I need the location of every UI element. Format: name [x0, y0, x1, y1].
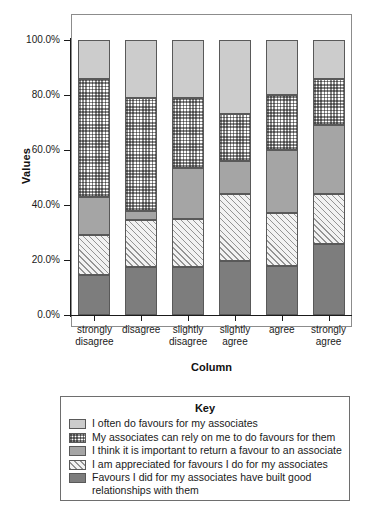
bar-segment	[266, 266, 298, 316]
stacked-bar	[172, 40, 204, 315]
y-axis-tick-label: 80.0%	[32, 90, 60, 100]
bar-segment	[125, 267, 157, 315]
legend-swatch	[69, 419, 86, 429]
bar-segment	[313, 79, 345, 126]
legend-item: I often do favours for my associates	[61, 417, 349, 430]
y-axis-tick-label: 60.0%	[32, 145, 60, 155]
bar-segment	[125, 211, 157, 221]
x-axis-category-label: slightlyagree	[210, 324, 261, 348]
x-axis-tick	[329, 316, 330, 321]
bar-segment	[78, 79, 110, 197]
legend-item-label: I am appreciated for favours I do for my…	[92, 458, 328, 471]
bar-segment	[219, 194, 251, 261]
bar-segment	[172, 40, 204, 98]
x-axis-category-label: stronglydisagree	[69, 324, 120, 348]
y-axis-tick	[64, 260, 70, 261]
bar-segment	[219, 40, 251, 114]
legend-item-label: I think it is important to return a favo…	[92, 444, 342, 457]
bar-segment	[78, 235, 110, 275]
bar-segment	[172, 168, 204, 219]
legend-items: I often do favours for my associatesMy a…	[61, 417, 349, 496]
x-axis-category-label: stronglyagree	[303, 324, 354, 348]
y-axis-tick-label: 100.0%	[26, 35, 60, 45]
legend-item: My associates can rely on me to do favou…	[61, 431, 349, 444]
bar-segment	[125, 98, 157, 211]
x-axis-category-label: agree	[256, 324, 307, 336]
legend-title: Key	[61, 402, 349, 414]
bar-segment	[266, 40, 298, 95]
legend-swatch	[69, 460, 86, 470]
legend-swatch	[69, 446, 86, 456]
x-axis-tick	[235, 316, 236, 321]
bar-segment	[125, 40, 157, 98]
stacked-bar	[219, 40, 251, 315]
legend-item-label: Favours I did for my associates have bui…	[92, 471, 343, 496]
bar-segment	[266, 150, 298, 213]
x-axis-tick	[282, 316, 283, 321]
bar-segment	[172, 219, 204, 267]
x-axis-tick	[94, 316, 95, 321]
y-axis-tick-label: 0.0%	[37, 310, 60, 320]
stacked-bar	[313, 40, 345, 315]
bar-segment	[78, 197, 110, 236]
x-axis-category-label: disagree	[116, 324, 167, 336]
bar-segment	[266, 213, 298, 265]
bar-segment	[313, 244, 345, 316]
y-axis-title: Values	[20, 126, 32, 206]
bar-segment	[266, 95, 298, 150]
y-axis-tick-label: 20.0%	[32, 255, 60, 265]
y-axis-line	[70, 38, 71, 317]
bar-segment	[172, 267, 204, 315]
legend-item-label: My associates can rely on me to do favou…	[92, 431, 335, 444]
bar-segment	[125, 220, 157, 267]
legend-item-label: I often do favours for my associates	[92, 417, 258, 430]
bar-segment	[313, 194, 345, 244]
x-axis-tick	[141, 316, 142, 321]
bar-segment	[313, 125, 345, 194]
y-axis-tick	[64, 205, 70, 206]
bar-segment	[313, 40, 345, 79]
bar-segment	[219, 114, 251, 161]
y-axis-tick	[64, 150, 70, 151]
y-axis-tick-label: 40.0%	[32, 200, 60, 210]
legend-item: Favours I did for my associates have bui…	[61, 471, 349, 496]
bar-segment	[219, 261, 251, 315]
bar-segment	[172, 98, 204, 168]
stacked-bar	[78, 40, 110, 315]
y-axis-tick	[64, 315, 70, 316]
bar-segment	[78, 275, 110, 315]
legend-item: I think it is important to return a favo…	[61, 444, 349, 457]
y-axis-tick	[64, 95, 70, 96]
x-axis-line	[70, 315, 352, 316]
bar-segment	[78, 40, 110, 79]
y-axis-tick	[64, 40, 70, 41]
legend-item: I am appreciated for favours I do for my…	[61, 458, 349, 471]
legend-key-box: Key I often do favours for my associates…	[60, 396, 350, 501]
bar-segment	[219, 161, 251, 194]
x-axis-title: Column	[71, 361, 352, 373]
stacked-bar	[266, 40, 298, 315]
stacked-bar	[125, 40, 157, 315]
plot-panel	[71, 14, 352, 327]
legend-swatch	[69, 433, 86, 443]
x-axis-category-label: slightlydisagree	[163, 324, 214, 348]
x-axis-tick	[188, 316, 189, 321]
legend-swatch	[69, 473, 86, 483]
